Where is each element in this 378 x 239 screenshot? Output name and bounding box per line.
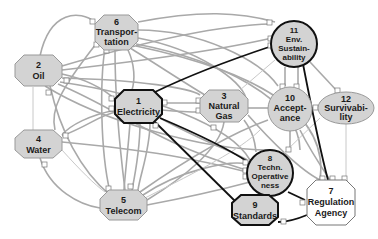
node-label: ance bbox=[280, 113, 301, 123]
node-water[interactable]: 4 Water bbox=[15, 130, 62, 158]
node-label: Techn. bbox=[257, 163, 282, 172]
node-number: 1 bbox=[136, 96, 141, 106]
node-label: Accept- bbox=[273, 103, 306, 113]
node-survivability[interactable]: 12 Survivabi- lity bbox=[318, 92, 374, 124]
node-label: Operative bbox=[252, 172, 289, 181]
node-number: 4 bbox=[36, 134, 41, 144]
node-oil[interactable]: 2 Oil bbox=[15, 55, 62, 86]
node-telecom[interactable]: 5 Telecom bbox=[100, 190, 147, 220]
node-number: 2 bbox=[36, 60, 41, 70]
node-label: Gas bbox=[215, 111, 232, 121]
node-electricity[interactable]: 1 Electricity bbox=[115, 90, 162, 123]
node-label: Electricity bbox=[117, 107, 160, 117]
node-techn-operativeness[interactable]: 8 Techn. Operative ness bbox=[247, 150, 293, 196]
node-transportation[interactable]: 6 Transpor- tation bbox=[95, 15, 138, 50]
node-label: Sustain- bbox=[278, 44, 310, 53]
node-label: Oil bbox=[32, 71, 44, 81]
node-label: Natural bbox=[208, 101, 239, 111]
node-label: Water bbox=[26, 145, 51, 155]
node-label: lity bbox=[339, 112, 352, 122]
node-label: Regulation bbox=[308, 197, 355, 207]
node-label: Transpor- bbox=[96, 27, 138, 37]
node-number: 11 bbox=[290, 26, 299, 35]
node-label: Standards bbox=[233, 211, 277, 221]
node-number: 3 bbox=[221, 91, 226, 101]
node-label: Env. bbox=[286, 35, 302, 44]
node-number: 9 bbox=[252, 200, 257, 210]
node-number: 6 bbox=[114, 17, 119, 27]
node-label: Telecom bbox=[106, 206, 142, 216]
node-label: tation bbox=[104, 37, 129, 47]
node-number: 10 bbox=[285, 93, 295, 103]
node-label: ness bbox=[261, 181, 280, 190]
node-regulation-agency[interactable]: 7 Regulation Agency bbox=[307, 180, 355, 225]
node-natural-gas[interactable]: 3 Natural Gas bbox=[200, 90, 248, 122]
node-number: 7 bbox=[328, 186, 333, 196]
node-label: Agency bbox=[315, 208, 348, 218]
node-env-sustainability[interactable]: 11 Env. Sustain- ability bbox=[271, 21, 317, 67]
node-label: ability bbox=[282, 53, 306, 62]
node-acceptance[interactable]: 10 Accept- ance bbox=[268, 87, 312, 131]
interdependency-diagram: 1 Electricity 2 Oil 3 Natural Gas 4 Wate… bbox=[0, 0, 378, 239]
node-number: 5 bbox=[121, 195, 126, 205]
node-number: 8 bbox=[268, 154, 273, 163]
node-standards[interactable]: 9 Standards bbox=[232, 195, 278, 225]
